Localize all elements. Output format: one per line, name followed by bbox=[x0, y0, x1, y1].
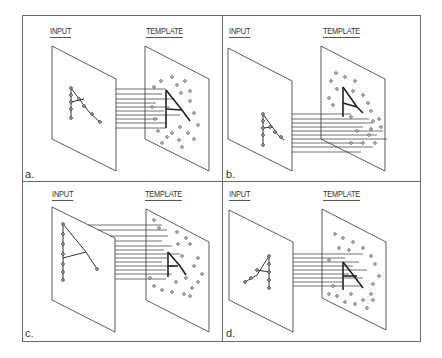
input-plane bbox=[228, 48, 292, 171]
panel-a-drawing bbox=[22, 15, 222, 181]
panel-b: INPUT TEMPLATE b. bbox=[223, 15, 423, 181]
input-letter-a bbox=[244, 255, 271, 290]
connection-lines bbox=[88, 225, 180, 279]
input-plane bbox=[52, 207, 115, 332]
template-plane bbox=[322, 209, 386, 330]
panel-c: INPUT TEMPLATE c. bbox=[22, 182, 222, 348]
input-plane bbox=[52, 46, 116, 171]
template-dots bbox=[151, 76, 200, 149]
panel-c-drawing bbox=[22, 182, 222, 342]
template-plane bbox=[146, 209, 209, 332]
input-letter-a bbox=[70, 87, 102, 124]
panel-d-drawing bbox=[223, 182, 423, 342]
input-letter-a bbox=[262, 113, 284, 147]
panel-b-drawing bbox=[223, 15, 423, 181]
template-plane bbox=[145, 46, 209, 171]
template-dots bbox=[328, 233, 381, 310]
template-dots bbox=[328, 72, 383, 145]
panel-d: INPUT TEMPLATE d. bbox=[223, 182, 423, 348]
template-letter-a bbox=[166, 90, 190, 128]
input-letter-a bbox=[62, 223, 99, 282]
template-matching-figure: INPUT TEMPLATE a. bbox=[0, 0, 442, 358]
panel-a: INPUT TEMPLATE a. bbox=[22, 15, 222, 181]
